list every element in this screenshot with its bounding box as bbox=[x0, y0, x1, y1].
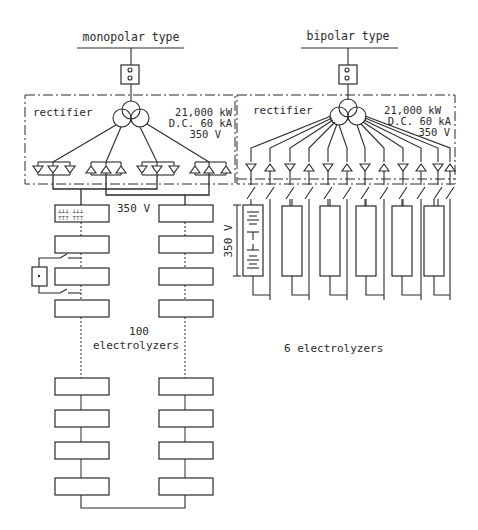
electrolyzer bbox=[392, 206, 412, 276]
rectifier-group-4 bbox=[190, 162, 231, 175]
bipolar-cell-voltage-dimension: 350 V bbox=[222, 205, 241, 276]
electrolyzer bbox=[55, 236, 109, 253]
monopolar-lower-stack bbox=[55, 378, 213, 477]
monopolar-count-label: electrolyzers bbox=[93, 339, 179, 352]
monopolar-title: monopolar type bbox=[83, 30, 180, 44]
monopolar-section: monopolar type rectifier 21,000 kW D.C. … bbox=[25, 30, 235, 508]
electrolyzer bbox=[159, 236, 213, 253]
monopolar-count-number: 100 bbox=[129, 325, 149, 338]
electrolyzer bbox=[282, 206, 302, 276]
monopolar-spec-voltage: 350 V bbox=[189, 128, 221, 140]
bipolar-rectifier-elements bbox=[246, 164, 455, 171]
bipolar-rectifier-label: rectifier bbox=[253, 104, 313, 117]
electrolyzer bbox=[55, 300, 109, 317]
electrolyzer bbox=[356, 206, 376, 276]
bipolar-transformer-icon bbox=[330, 99, 366, 125]
monopolar-bus-voltage: 350 V bbox=[117, 202, 150, 215]
bipolar-spec-voltage: 350 V bbox=[418, 126, 450, 138]
electrolyzer bbox=[55, 478, 109, 495]
electrolyzer bbox=[320, 206, 340, 276]
svg-text:⊥⊥⊥ ⊥⊥⊥: ⊥⊥⊥ ⊥⊥⊥ bbox=[58, 207, 84, 214]
monopolar-return-line bbox=[81, 495, 185, 508]
rectifier-group-2 bbox=[86, 162, 126, 175]
bipolar-electrolyzers bbox=[243, 205, 444, 276]
svg-text:⊤⊤⊤ ⊤⊤⊤: ⊤⊤⊤ ⊤⊤⊤ bbox=[58, 214, 84, 221]
monopolar-rectifier-label: rectifier bbox=[33, 106, 93, 119]
electrolyzer-power-diagram: monopolar type rectifier 21,000 kW D.C. … bbox=[0, 0, 478, 530]
monopolar-transformer-icon bbox=[113, 101, 149, 127]
bipolar-count-label: 6 electrolyzers bbox=[284, 342, 383, 355]
rectifier-group-3 bbox=[137, 162, 179, 175]
electrolyzer bbox=[159, 478, 213, 495]
electrolyzer bbox=[159, 268, 213, 285]
monopolar-rectifier-groups bbox=[33, 162, 231, 175]
rectifier-group-1 bbox=[33, 162, 75, 175]
electrolyzer bbox=[424, 206, 444, 276]
bipolar-cell-voltage: 350 V bbox=[222, 224, 235, 257]
bipolar-switches bbox=[247, 171, 454, 300]
bipolar-title: bipolar type bbox=[306, 29, 389, 43]
electrolyzer bbox=[55, 268, 109, 285]
electrolyzer bbox=[159, 300, 213, 317]
bipolar-section: bipolar type rectifier 21,000 kW D.C. 60… bbox=[222, 29, 455, 355]
electrolyzer bbox=[159, 205, 213, 222]
